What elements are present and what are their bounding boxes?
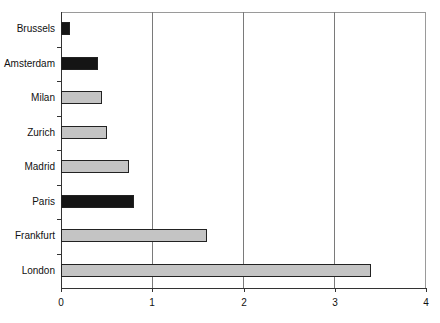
category-label: Frankfurt bbox=[15, 230, 55, 242]
category-label: Madrid bbox=[24, 161, 55, 173]
x-tick-label: 3 bbox=[325, 297, 345, 308]
bar-zurich bbox=[61, 126, 107, 139]
bar-milan bbox=[61, 91, 102, 104]
x-tick-label: 2 bbox=[234, 297, 254, 308]
category-label: Brussels bbox=[17, 23, 55, 35]
y-tick bbox=[57, 185, 61, 186]
y-tick bbox=[57, 219, 61, 220]
bar-madrid bbox=[61, 160, 129, 173]
category-label: Zurich bbox=[27, 127, 55, 139]
gridline-3 bbox=[334, 12, 335, 288]
y-tick bbox=[57, 254, 61, 255]
category-label: London bbox=[22, 265, 55, 277]
gridline-2 bbox=[243, 12, 244, 288]
y-axis bbox=[61, 12, 62, 289]
category-label: Milan bbox=[31, 92, 55, 104]
bar-frankfurt bbox=[61, 229, 207, 242]
y-tick bbox=[57, 47, 61, 48]
x-tick bbox=[426, 288, 427, 292]
x-tick-label: 4 bbox=[416, 297, 436, 308]
x-tick bbox=[61, 288, 62, 292]
x-tick-label: 1 bbox=[142, 297, 162, 308]
y-tick bbox=[57, 81, 61, 82]
y-tick bbox=[57, 150, 61, 151]
x-tick-label: 0 bbox=[51, 297, 71, 308]
bar-brussels bbox=[61, 22, 70, 35]
bar-amsterdam bbox=[61, 57, 98, 70]
bar-london bbox=[61, 264, 371, 277]
category-label: Amsterdam bbox=[4, 58, 55, 70]
bar-paris bbox=[61, 195, 134, 208]
category-label: Paris bbox=[32, 196, 55, 208]
x-tick bbox=[244, 288, 245, 292]
gridline-1 bbox=[152, 12, 153, 288]
y-tick bbox=[57, 116, 61, 117]
x-tick bbox=[152, 288, 153, 292]
x-tick bbox=[335, 288, 336, 292]
